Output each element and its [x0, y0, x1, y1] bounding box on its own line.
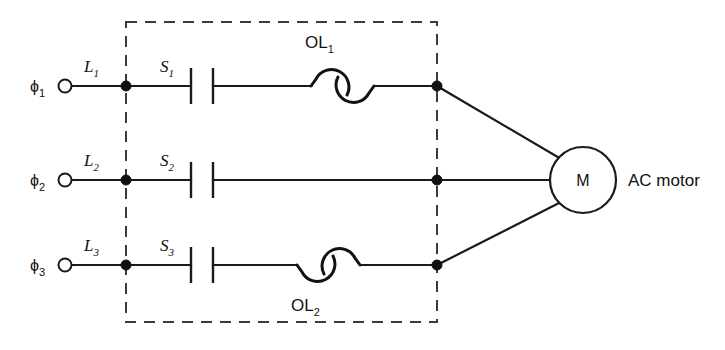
line-2-label: L2: [83, 151, 99, 173]
switch-3-label: S3: [160, 236, 175, 258]
motor-symbol-letter: M: [576, 172, 589, 189]
overload-relay-ol2-label: OL2: [291, 296, 320, 318]
overload-relay-ol1-symbol: [311, 70, 374, 103]
switch-1-label: S1: [160, 57, 174, 79]
motor-starter-diagram: ϕ1 ϕ2 ϕ3 L1 L2 L3 S1 S2 S3 OL1: [0, 0, 725, 350]
phase-2-branch: [59, 162, 551, 198]
phase-1-terminal[interactable]: [59, 80, 72, 93]
line-1-label: L1: [83, 57, 99, 79]
phase-3-left-junction-dot: [121, 260, 131, 270]
phase-1-terminal-label: ϕ1: [30, 78, 45, 99]
phase-3-motor-lead: [437, 202, 561, 265]
switch-s1-symbol[interactable]: [191, 68, 213, 104]
phase-1-motor-lead: [437, 86, 561, 159]
overload-relay-ol2-symbol: [297, 249, 360, 282]
switch-2-label: S2: [160, 151, 175, 173]
switch-s3-symbol[interactable]: [191, 247, 213, 283]
phase-2-terminal-label: ϕ2: [30, 172, 45, 193]
phase-3-terminal[interactable]: [59, 259, 72, 272]
phase-2-left-junction-dot: [121, 175, 131, 185]
phase-3-terminal-label: ϕ3: [30, 257, 45, 278]
phase-1-branch: [59, 68, 562, 159]
phase-3-right-junction-dot: [432, 260, 442, 270]
schematic-canvas: ϕ1 ϕ2 ϕ3 L1 L2 L3 S1 S2 S3 OL1: [0, 0, 725, 350]
phase-1-left-junction-dot: [121, 81, 131, 91]
phase-1-right-junction-dot: [432, 81, 442, 91]
phase-2-right-junction-dot: [432, 175, 442, 185]
line-3-label: L3: [83, 236, 99, 258]
switch-s2-symbol[interactable]: [191, 162, 213, 198]
phase-3-branch: [59, 202, 562, 283]
phase-2-terminal[interactable]: [59, 174, 72, 187]
motor-caption: AC motor: [628, 171, 700, 190]
overload-relay-ol1-label: OL1: [305, 33, 334, 55]
